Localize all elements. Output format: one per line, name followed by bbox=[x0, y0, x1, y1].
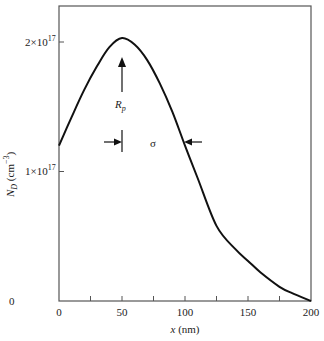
y-tick-label: 0 bbox=[9, 295, 15, 307]
chart: 0 50 100 150 200 x (nm) 0 1×1017 2×1017 … bbox=[0, 0, 324, 341]
y-axis-label: ND (cm−3) bbox=[2, 152, 19, 199]
x-axis-label: x (nm) bbox=[169, 323, 199, 336]
x-tick-label: 100 bbox=[177, 306, 194, 318]
sigma-label: σ bbox=[150, 137, 156, 149]
y-ticks bbox=[59, 42, 64, 172]
x-tick-label: 200 bbox=[303, 306, 320, 318]
x-ticks bbox=[91, 296, 280, 301]
y-tick-label: 1×1017 bbox=[25, 163, 56, 177]
rp-label: Rp bbox=[114, 98, 126, 113]
x-tick-label: 50 bbox=[117, 306, 129, 318]
x-tick-label: 0 bbox=[56, 306, 62, 318]
plot-frame bbox=[59, 6, 311, 301]
x-tick-label: 150 bbox=[240, 306, 257, 318]
profile-curve bbox=[59, 38, 311, 301]
y-tick-label: 2×1017 bbox=[25, 34, 56, 48]
